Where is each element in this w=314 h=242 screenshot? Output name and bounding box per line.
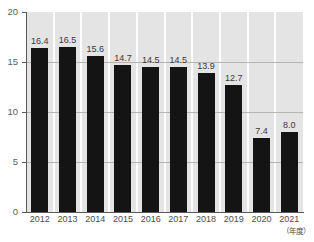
bar [31,48,48,212]
x-tick-label: 2012 [26,215,54,224]
bar [142,67,159,212]
y-tick-mark [22,162,26,163]
x-tick-label: 2014 [81,215,109,224]
x-axis-unit-label: （年度） [282,228,310,236]
bar-value-label: 14.5 [165,56,193,65]
bar [114,65,131,212]
bar [87,56,104,212]
x-tick-label: 2021 [275,215,303,224]
bar-value-label: 14.5 [137,56,165,65]
bar [225,85,242,212]
y-tick-label: 5 [0,157,18,167]
bar-value-label: 15.6 [81,45,109,54]
y-tick-mark [22,12,26,13]
bar-value-label: 16.5 [54,36,82,45]
x-tick-label: 2020 [248,215,276,224]
y-tick-label: 10 [0,107,18,117]
y-tick-mark [22,62,26,63]
x-tick-label: 2017 [165,215,193,224]
x-tick-label: 2019 [220,215,248,224]
x-tick-label: 2015 [109,215,137,224]
y-tick-label: 15 [0,57,18,67]
bar [170,67,187,212]
y-tick-mark [22,212,26,213]
bar-value-label: 7.4 [248,127,276,136]
x-axis-line [26,212,304,213]
x-tick-label: 2013 [54,215,82,224]
y-tick-label: 20 [0,7,18,17]
bar-value-label: 16.4 [26,37,54,46]
bar [59,47,76,212]
bar-value-label: 14.7 [109,54,137,63]
bar [253,138,270,212]
bar [281,132,298,212]
bar-value-label: 12.7 [220,74,248,83]
bar-chart: 05101520 16.416.515.614.714.514.513.912.… [0,0,314,242]
bar-value-label: 8.0 [275,121,303,130]
x-tick-label: 2016 [137,215,165,224]
y-tick-label: 0 [0,207,18,217]
bar [198,73,215,212]
x-tick-label: 2018 [192,215,220,224]
y-tick-mark [22,112,26,113]
bar-value-label: 13.9 [192,62,220,71]
